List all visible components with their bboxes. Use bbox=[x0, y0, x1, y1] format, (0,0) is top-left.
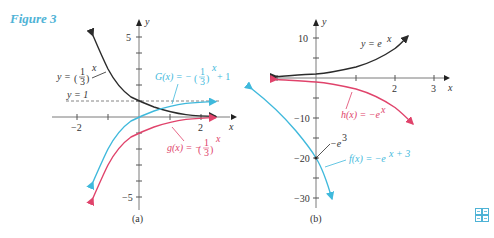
svg-text:): ) bbox=[86, 73, 89, 85]
label-minus-e-cubed: −e 3 bbox=[317, 132, 347, 157]
caption-b: (b) bbox=[310, 213, 322, 225]
svg-text:): ) bbox=[210, 144, 213, 156]
svg-text:3: 3 bbox=[80, 76, 85, 87]
svg-text:x: x bbox=[215, 133, 221, 144]
y-tick-label-10: 10 bbox=[298, 33, 308, 44]
svg-text:+ 1: + 1 bbox=[217, 71, 230, 82]
x-tick-label-3-b: 3 bbox=[431, 83, 436, 94]
svg-text:G(x) = −: G(x) = − bbox=[155, 71, 192, 83]
grid-icon[interactable] bbox=[475, 208, 489, 222]
label-h: h(x) = −e x bbox=[341, 92, 386, 121]
svg-text:f(x) = −e: f(x) = −e bbox=[349, 153, 386, 165]
svg-text:(: ( bbox=[194, 73, 198, 85]
y-axis-arrow-icon bbox=[136, 19, 142, 26]
svg-text:y =: y = bbox=[56, 71, 71, 82]
svg-text:−e: −e bbox=[330, 138, 342, 149]
x-axis-label-a: x bbox=[228, 121, 234, 132]
svg-text:x: x bbox=[91, 62, 97, 73]
x-tick-label-2: 2 bbox=[198, 122, 203, 133]
label-exp: y = e x bbox=[360, 33, 392, 49]
svg-text:3: 3 bbox=[342, 132, 347, 143]
label-g: g(x) = − ( 1 3 ) x bbox=[167, 127, 221, 158]
x-axis-label-b: x bbox=[447, 82, 453, 93]
svg-text:x: x bbox=[380, 104, 386, 115]
label-one-third-power: y = ( 1 3 ) x bbox=[56, 62, 106, 87]
y-axis-arrow-icon bbox=[313, 19, 319, 26]
x-tick-label-2-b: 2 bbox=[392, 83, 397, 94]
asymptote-label: y = 1 bbox=[66, 89, 88, 100]
svg-text:x: x bbox=[386, 33, 392, 44]
y-tick-label-minus20: −20 bbox=[294, 153, 310, 164]
svg-text:): ) bbox=[206, 73, 209, 85]
svg-text:x + 3: x + 3 bbox=[388, 148, 410, 159]
y-tick-label-5: 5 bbox=[126, 32, 131, 43]
x-axis-arrow-icon bbox=[444, 75, 450, 81]
label-G: G(x) = − ( 1 3 ) x + 1 bbox=[155, 62, 230, 104]
y-tick-label-minus10: −10 bbox=[294, 113, 310, 124]
x-tick-label-minus2: −2 bbox=[71, 122, 82, 133]
y-axis-label-a: y bbox=[144, 16, 150, 27]
panel-b: y x 10 −10 −20 −30 2 3 y = e x h(x) = −e… bbox=[252, 16, 453, 225]
label-f: f(x) = −e x + 3 bbox=[325, 148, 410, 167]
svg-text:3: 3 bbox=[200, 76, 205, 87]
svg-text:y = e: y = e bbox=[360, 38, 382, 49]
svg-text:3: 3 bbox=[204, 147, 209, 158]
y-tick-label-minus30: −30 bbox=[294, 193, 310, 204]
panel-a: y x 5 −5 −2 2 y = 1 y = ( 1 3 ) x G(x) =… bbox=[52, 16, 237, 225]
svg-text:h(x) = −e: h(x) = −e bbox=[341, 109, 381, 121]
curve-f bbox=[252, 89, 332, 199]
x-axis-arrow-icon bbox=[231, 114, 237, 120]
y-tick-label-minus5: −5 bbox=[122, 192, 133, 203]
figure-canvas: y x 5 −5 −2 2 y = 1 y = ( 1 3 ) x G(x) =… bbox=[0, 0, 494, 238]
svg-text:(: ( bbox=[74, 73, 78, 85]
caption-a: (a) bbox=[132, 213, 143, 225]
svg-text:g(x) = −: g(x) = − bbox=[167, 142, 202, 154]
y-axis-label-b: y bbox=[321, 16, 327, 27]
